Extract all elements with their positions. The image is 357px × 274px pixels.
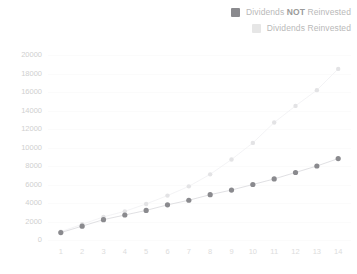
data-point[interactable]	[187, 184, 191, 188]
data-point[interactable]	[144, 202, 148, 206]
data-point[interactable]	[186, 198, 191, 203]
data-point[interactable]	[293, 170, 298, 175]
data-point[interactable]	[144, 208, 149, 213]
legend-label-suffix: Reinvested	[305, 7, 351, 17]
data-point[interactable]	[272, 176, 277, 181]
chart-container: Dividends NOT Reinvested Dividends Reinv…	[0, 0, 357, 274]
data-series-layer	[0, 48, 357, 274]
legend-item-dividends-reinvested[interactable]: Dividends Reinvested	[252, 24, 351, 33]
legend-item-dividends-not-reinvested[interactable]: Dividends NOT Reinvested	[231, 8, 351, 17]
data-point[interactable]	[229, 187, 234, 192]
data-point[interactable]	[336, 67, 340, 71]
data-point[interactable]	[122, 212, 127, 217]
data-point[interactable]	[250, 182, 255, 187]
data-point[interactable]	[293, 104, 297, 108]
data-point[interactable]	[272, 120, 276, 124]
data-point[interactable]	[80, 224, 85, 229]
series-connector-line	[61, 69, 338, 232]
legend-label-dividends-reinvested: Dividends Reinvested	[267, 24, 351, 33]
data-point[interactable]	[208, 172, 212, 176]
data-point[interactable]	[229, 157, 233, 161]
series-dividends-not-reinvested	[58, 156, 341, 235]
data-point[interactable]	[165, 193, 169, 197]
legend-label-emphasis: NOT	[287, 7, 305, 17]
data-point[interactable]	[208, 192, 213, 197]
series-dividends-reinvested	[59, 67, 341, 234]
data-point[interactable]	[336, 156, 341, 161]
legend-label-dividends-not-reinvested: Dividends NOT Reinvested	[246, 8, 351, 17]
data-point[interactable]	[165, 202, 170, 207]
data-point[interactable]	[315, 88, 319, 92]
legend-swatch-dark-icon	[231, 8, 240, 17]
plot-area: 0200040006000800010000120001400016000180…	[0, 48, 357, 274]
data-point[interactable]	[101, 217, 106, 222]
chart-legend: Dividends NOT Reinvested Dividends Reinv…	[231, 8, 351, 33]
legend-label-prefix-2: Dividends Reinvested	[267, 23, 351, 33]
legend-swatch-light-icon	[252, 24, 261, 33]
data-point[interactable]	[314, 163, 319, 168]
legend-label-prefix: Dividends	[246, 7, 287, 17]
data-point[interactable]	[58, 230, 63, 235]
data-point[interactable]	[251, 141, 255, 145]
